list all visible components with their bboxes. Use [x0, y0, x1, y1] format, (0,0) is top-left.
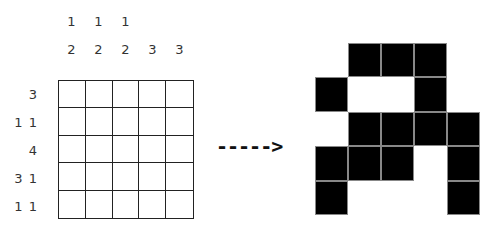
dashed-arrow-icon: -----> — [216, 134, 282, 158]
empty-cell — [315, 112, 348, 146]
empty-cell — [447, 43, 480, 77]
row-clue-5: 1 1 — [14, 199, 38, 215]
puzzle-cell — [86, 81, 113, 108]
empty-cell — [414, 146, 447, 180]
column-clue-2-bottom: 2 — [85, 42, 112, 58]
empty-cell — [381, 77, 414, 111]
row-clue-1: 3 — [29, 87, 38, 103]
filled-cell — [381, 146, 414, 180]
puzzle-cell — [166, 163, 193, 190]
column-clue-3-top: 1 — [112, 14, 139, 30]
puzzle-cell — [113, 136, 140, 163]
empty-cell — [348, 77, 381, 111]
puzzle-cell — [59, 163, 86, 190]
column-clue-5: 3 — [166, 42, 193, 58]
empty-puzzle-grid — [58, 80, 194, 219]
column-clue-4: 3 — [139, 42, 166, 58]
filled-cell — [315, 77, 348, 111]
row-clue-3: 4 — [29, 143, 38, 159]
empty-cell — [348, 181, 381, 215]
puzzle-cell — [166, 136, 193, 163]
filled-cell — [414, 77, 447, 111]
puzzle-cell — [86, 191, 113, 218]
column-clue-3-bottom: 2 — [112, 42, 139, 58]
filled-cell — [315, 146, 348, 180]
puzzle-cell — [86, 108, 113, 135]
filled-cell — [315, 181, 348, 215]
filled-cell — [348, 112, 381, 146]
row-clue-4: 3 1 — [14, 171, 38, 187]
empty-cell — [414, 181, 447, 215]
filled-cell — [414, 112, 447, 146]
solved-puzzle-grid — [315, 43, 480, 215]
filled-cell — [348, 43, 381, 77]
filled-cell — [447, 181, 480, 215]
puzzle-cell — [86, 136, 113, 163]
puzzle-cell — [166, 81, 193, 108]
puzzle-cell — [139, 191, 166, 218]
column-clue-1-bottom: 2 — [58, 42, 85, 58]
empty-cell — [447, 77, 480, 111]
puzzle-cell — [59, 136, 86, 163]
puzzle-cell — [113, 163, 140, 190]
puzzle-cell — [59, 191, 86, 218]
column-clue-1-top: 1 — [58, 14, 85, 30]
puzzle-cell — [113, 191, 140, 218]
puzzle-cell — [113, 81, 140, 108]
puzzle-cell — [59, 108, 86, 135]
column-clue-2-top: 1 — [85, 14, 112, 30]
filled-cell — [447, 112, 480, 146]
puzzle-cell — [166, 108, 193, 135]
empty-cell — [315, 43, 348, 77]
puzzle-cell — [139, 163, 166, 190]
puzzle-cell — [86, 163, 113, 190]
puzzle-cell — [139, 136, 166, 163]
filled-cell — [381, 112, 414, 146]
filled-cell — [414, 43, 447, 77]
puzzle-cell — [59, 81, 86, 108]
puzzle-cell — [166, 191, 193, 218]
filled-cell — [381, 43, 414, 77]
puzzle-cell — [113, 108, 140, 135]
filled-cell — [348, 146, 381, 180]
puzzle-cell — [139, 108, 166, 135]
puzzle-cell — [139, 81, 166, 108]
row-clue-2: 1 1 — [14, 115, 38, 131]
filled-cell — [447, 146, 480, 180]
empty-cell — [381, 181, 414, 215]
